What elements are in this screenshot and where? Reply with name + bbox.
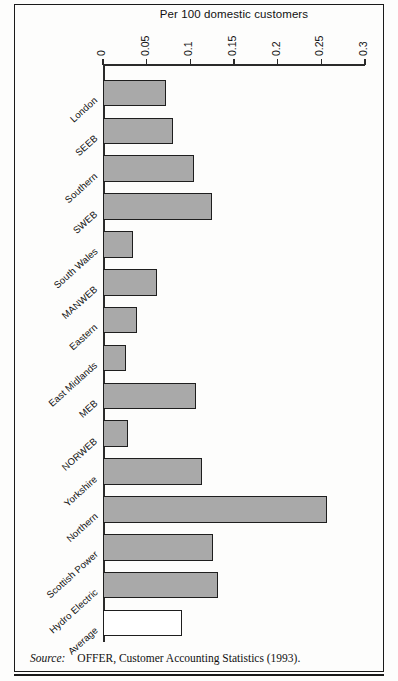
bar[interactable] (103, 231, 133, 258)
bar-row[interactable] (103, 345, 365, 372)
bar-row[interactable] (103, 383, 365, 410)
bar-row[interactable] (103, 118, 365, 145)
figure-bottom-rule (14, 674, 384, 676)
bar-row[interactable] (103, 307, 365, 334)
figure-page: Per 100 domestic customers 00.050.10.150… (0, 0, 398, 681)
bar[interactable] (103, 420, 128, 447)
bar[interactable] (103, 269, 157, 296)
bar[interactable] (103, 155, 194, 182)
bar[interactable] (103, 383, 196, 410)
bar[interactable] (103, 345, 126, 372)
bar-row[interactable] (103, 458, 365, 485)
bar[interactable] (103, 307, 137, 334)
bar[interactable] (103, 80, 166, 107)
axis-tick-label: 0.2 (270, 41, 282, 56)
bar-row[interactable] (103, 269, 365, 296)
axis-tick (277, 59, 278, 65)
plot-area: 00.050.10.150.20.250.3 (103, 64, 365, 642)
axis-tick (102, 59, 103, 65)
bar[interactable] (103, 118, 173, 145)
bar[interactable] (103, 193, 212, 220)
bar-row[interactable] (103, 572, 365, 599)
bar-row[interactable] (103, 193, 365, 220)
bar[interactable] (103, 572, 218, 599)
bar-row[interactable] (103, 534, 365, 561)
bar-row[interactable] (103, 155, 365, 182)
bar-row[interactable] (103, 496, 365, 523)
axis-tick-label: 0.25 (313, 36, 325, 56)
bar[interactable] (103, 534, 213, 561)
axis-tick-label: 0.3 (357, 41, 369, 56)
axis-tick-label: 0 (95, 50, 107, 56)
axis-tick (146, 59, 147, 65)
bar-row[interactable] (103, 231, 365, 258)
axis-tick (233, 59, 234, 65)
axis-tick-label: 0.1 (182, 41, 194, 56)
bar-row[interactable] (103, 80, 365, 107)
axis-title: Per 100 domestic customers (103, 8, 365, 20)
source-label: Source: (30, 652, 65, 664)
bar[interactable] (103, 610, 182, 637)
axis-tick-label: 0.15 (226, 36, 238, 56)
bar[interactable] (103, 458, 202, 485)
source-note: Source:OFFER, Customer Accounting Statis… (30, 652, 300, 664)
source-text: OFFER, Customer Accounting Statistics (1… (77, 652, 300, 664)
bar-row[interactable] (103, 420, 365, 447)
axis-tick (190, 59, 191, 65)
bar[interactable] (103, 496, 327, 523)
bar-row[interactable] (103, 610, 365, 637)
axis-tick (321, 59, 322, 65)
axis-end-cap (364, 59, 366, 65)
axis-tick-label: 0.05 (139, 36, 151, 56)
